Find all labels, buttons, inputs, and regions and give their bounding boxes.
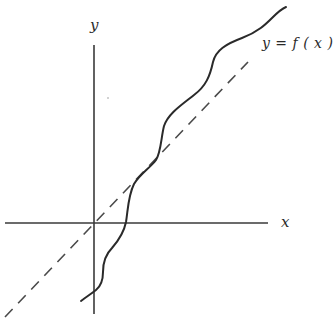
x-axis-label: x bbox=[281, 215, 289, 230]
function-graph-diagram: y x y = f ( x ) bbox=[0, 0, 334, 324]
identity-dashed-line bbox=[5, 62, 248, 317]
scan-speck bbox=[107, 97, 109, 99]
y-axis-label: y bbox=[90, 18, 98, 33]
function-label: y = f ( x ) bbox=[262, 36, 333, 50]
function-curve bbox=[81, 7, 286, 301]
